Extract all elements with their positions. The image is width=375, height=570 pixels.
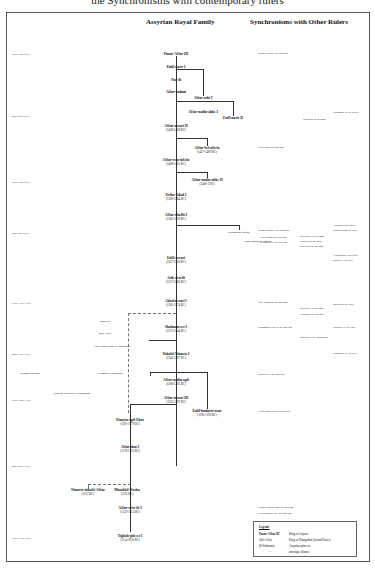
king-node: Aššur-šaduni (166, 90, 186, 94)
minor-figure: Ibashi-ili (100, 320, 110, 323)
branch-line (207, 138, 208, 146)
branch-line (150, 372, 151, 376)
king-dates: (1327-1318 BC) (166, 260, 186, 264)
minor-figure: (Muballitat-Šerua) (228, 231, 249, 234)
synchronism-ruler: Akhenaten of Egypt (333, 224, 356, 227)
king-dates: (1133 BC) (71, 492, 105, 496)
branch-line (207, 372, 208, 409)
synchronism-ruler: Tudhaliya IV of Hatti (333, 352, 357, 355)
king-dates: (1196-1192 BC) (193, 413, 222, 417)
synchronism-ruler: Thutmose III of Egypt (333, 111, 358, 114)
king-dates: (1363-1328 BC) (165, 217, 187, 221)
king-node: Enlil-nasir I (167, 65, 186, 69)
minor-figure: Aššur-nadin-ahhe in Hanigalbat (94, 345, 130, 348)
king-dates: (1317-1306 BC) (166, 280, 186, 284)
header-synchronisms: Synchronisms with Other Rulers (250, 18, 348, 26)
era-label: (mid 13th c. BC) (12, 353, 30, 356)
king-dates: (1178-1133 BC) (120, 449, 140, 453)
king-node: Puzur-Aššur III (164, 52, 188, 56)
king-name: Aššur-rabi I (194, 96, 213, 100)
era-label: (early 13th c. BC) (12, 302, 31, 305)
synchronism-ruler: Nazi-Bugaš of Babylon (260, 236, 286, 239)
king-node: Enlil-nerari(1327-1318 BC) (166, 256, 186, 264)
king-node: Aššur-nerari III(1202-1197 BC) (164, 396, 189, 404)
synchronism-ruler: Suppiluliuma of Hatti (333, 229, 357, 232)
king-node: Shalmaneser I(1273-1244 BC) (165, 325, 187, 333)
synchronism-ruler: Muršili II of Hatti (333, 259, 353, 262)
synchronism-ruler: Ninurta-nadin-šumi of Babylon (258, 506, 293, 509)
dashed-branch (128, 313, 176, 314)
king-dates: (1191-1179 BC) (116, 422, 144, 426)
branch-line (149, 340, 176, 341)
king-node: Nur-ili (171, 78, 181, 82)
era-label: (mid 12th c. BC) (12, 465, 30, 468)
king-node: Aššur-rabi I (194, 96, 213, 100)
king-node: Enlil-nasir II (223, 116, 243, 120)
minor-figure: Sulmanu-mušabši (20, 372, 40, 375)
king-node: Enlil-kudurri-usur(1196-1192 BC) (193, 409, 222, 417)
king-node: Ninurta-tukulti-Aššur(1133 BC) (71, 488, 105, 496)
header-assyrian-royal-family: Assyrian Royal Family (146, 18, 214, 26)
synchronism-ruler: Saustatar of Mitanni (303, 118, 326, 121)
synchronism-ruler: Nebuchadnezzar I of Babylon (258, 512, 291, 515)
king-node: Eriba-Adad I(1390-1364 BC) (166, 193, 187, 201)
king-dates: (1417-1409 BC) (194, 150, 219, 154)
synchronism-ruler: Kaštiliaš IV of Babylon (258, 373, 285, 376)
branch-line (176, 101, 233, 102)
synchronism-ruler: Suttarna II of Mitanni (300, 235, 324, 238)
minor-figure: Qibi-Aššur (99, 332, 111, 335)
king-node: Aššur-uballit I(1363-1328 BC) (165, 213, 187, 221)
king-dates: (1428-1418 BC) (164, 128, 187, 132)
king-node: Adad-nerari I(1305-1274 BC) (165, 299, 186, 307)
king-name: Aššur-šaduni (166, 90, 186, 94)
king-dates: (1243-1207 BC) (163, 356, 190, 360)
synchronism-ruler: Burna-Buriaš I of Babylon (258, 52, 288, 55)
king-node: Aššur-reša-iši I(1132-1115 BC) (118, 506, 141, 514)
era-label: (early 14th c.BC) (12, 181, 30, 184)
branch-line (176, 172, 207, 173)
family-tree-frame (6, 12, 370, 562)
king-node: Tiglath-pileser I(1114-1076 BC) (118, 534, 143, 542)
minor-figure: (king of Ninevah) in Hanigalbat (54, 392, 90, 395)
synchronism-ruler: Kadašman-Enlil II of Babylon (258, 326, 292, 329)
synchronism-ruler: Nazi-Maruttaš of Babylon (258, 301, 287, 304)
era-label: (early 11th c. BC) (12, 537, 31, 540)
synchronism-ruler: Tušratta of Mitanni (300, 240, 322, 243)
king-node: Aššur-nadin-ahhe I (188, 110, 218, 114)
king-node: Tukulti-Ninurta I(1243-1207 BC) (163, 352, 190, 360)
king-node: Aššur-bel-nišešu(1417-1409 BC) (194, 146, 219, 154)
king-name: Enlil-nasir II (223, 116, 243, 120)
king-dates: (1114-1076 BC) (118, 538, 143, 542)
legend-title: Legend: (259, 525, 270, 529)
synchronism-ruler: Šattuara I of Mitanni (300, 307, 323, 310)
king-name: Aššur-nadin-ahhe I (188, 110, 218, 114)
branch-line (239, 225, 240, 230)
synchronism-ruler: Šattuara II of Hanigalbat (300, 336, 328, 339)
synchronism-ruler: Adad-šuma-usur of Babylon (258, 410, 290, 413)
king-dates: (1273-1244 BC) (165, 329, 187, 333)
king-dates: (1132-1115 BC) (118, 510, 141, 514)
synchronism-ruler: Wasašatta of Mitanni (300, 313, 324, 316)
synchronism-ruler: Burna-Buriaš II of Babylon (258, 229, 289, 232)
king-dates: (1305-1274 BC) (165, 303, 186, 307)
king-node: Mutakkil-Nusku(1132 BC) (114, 488, 140, 496)
era-label: (mid 14th c.BC) (12, 232, 29, 235)
synchronism-ruler: Šattiwaza of Mitanni (300, 245, 323, 248)
king-name: Nur-ili (171, 78, 181, 82)
king-dates: (1132 BC) (114, 492, 140, 496)
era-label: (mid 15th c.BC) (12, 115, 29, 118)
synchronism-ruler: Kara-indaš of Babylon (258, 146, 283, 149)
era-label: (early 12th c. BC) (12, 399, 31, 402)
branch-line (203, 69, 204, 96)
king-dates: (1202-1197 BC) (164, 400, 189, 404)
synchronism-ruler: Kurigalzu II of Babylon (260, 241, 287, 244)
era-label: (early 15th c.BC) (12, 53, 30, 56)
king-node: Ninurta-apil-Ekur(1191-1179 BC) (116, 418, 144, 426)
branch-line (130, 404, 176, 405)
branch-line (176, 69, 203, 70)
king-node: Arik-den-ili(1317-1306 BC) (166, 276, 186, 284)
king-name: Enlil-nasir I (167, 65, 186, 69)
branch-line (150, 372, 207, 373)
branch-line (176, 138, 207, 139)
synchronism-ruler: Arnuwanda II of Hatti (333, 254, 358, 257)
